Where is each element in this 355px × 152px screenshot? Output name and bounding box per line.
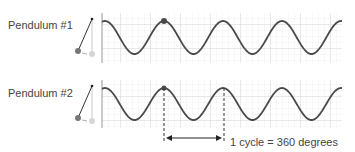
pendulum-1-chart — [102, 13, 342, 63]
pendulum-1-peak-dot — [161, 18, 167, 24]
pendulum-2-chart — [102, 80, 342, 142]
pendulum-2-icon — [75, 85, 95, 124]
diagram-canvas — [0, 0, 355, 152]
cycle-arrow-icon — [166, 135, 222, 141]
pendulum-1-icon — [75, 18, 95, 57]
